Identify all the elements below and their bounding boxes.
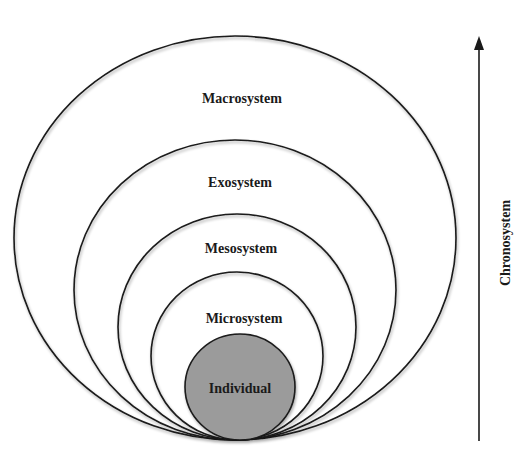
macrosystem-label: Macrosystem (202, 91, 282, 106)
mesosystem-label: Mesosystem (205, 241, 278, 256)
ecological-systems-diagram: Macrosystem Exosystem Mesosystem Microsy… (0, 0, 523, 462)
individual-label: Individual (209, 381, 271, 396)
arrow-up-icon (474, 36, 484, 50)
chronosystem-axis: Chronosystem (474, 36, 513, 441)
exosystem-label: Exosystem (208, 175, 272, 190)
microsystem-label: Microsystem (206, 311, 283, 326)
chronosystem-label: Chronosystem (498, 200, 513, 286)
